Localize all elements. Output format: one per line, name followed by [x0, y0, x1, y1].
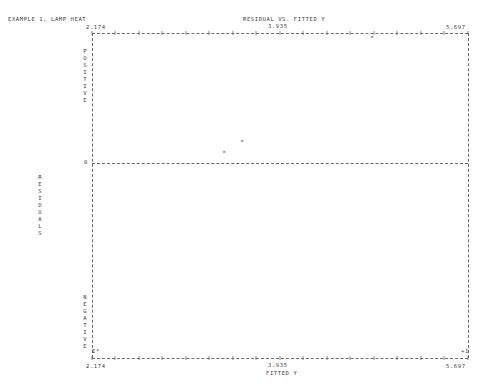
bottom-right-marker: +1 — [461, 349, 469, 355]
y-negative-label: NEGATIVE — [82, 294, 88, 350]
x-bottom-tick-max: 5.697 — [446, 364, 466, 370]
y-positive-label: POSITIVE — [82, 48, 88, 104]
x-axis-label: FITTED Y — [266, 371, 297, 377]
data-point: * — [240, 139, 244, 145]
frame-ticks — [0, 0, 504, 390]
data-point: * — [222, 150, 226, 156]
x-bottom-tick-mid: 3.935 — [268, 363, 288, 369]
x-bottom-tick-min: 2.174 — [86, 364, 106, 370]
bottom-left-marker: I* — [92, 349, 100, 355]
data-point: * — [370, 35, 374, 41]
y-axis-label: RESIDUALS — [37, 174, 43, 237]
